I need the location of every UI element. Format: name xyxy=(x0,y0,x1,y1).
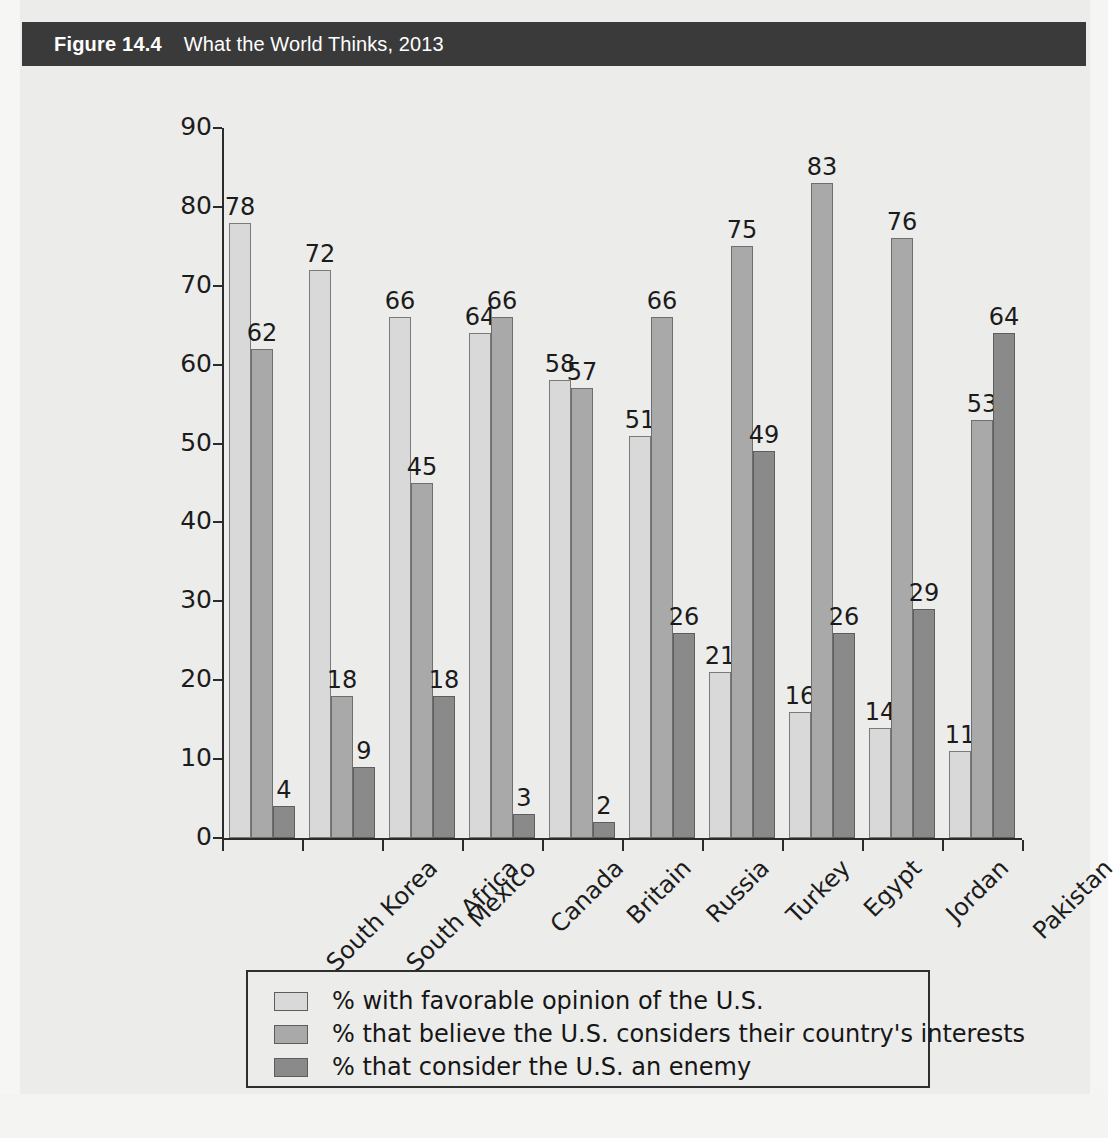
x-tick-mark xyxy=(542,840,544,851)
x-tick-mark xyxy=(1022,840,1024,851)
legend-item[interactable]: % that consider the U.S. an enemy xyxy=(274,1050,751,1084)
bar[interactable] xyxy=(673,633,695,838)
legend-label: % with favorable opinion of the U.S. xyxy=(332,987,764,1015)
bar[interactable] xyxy=(491,317,513,838)
bar[interactable] xyxy=(753,451,775,838)
bar[interactable] xyxy=(731,246,753,838)
bar[interactable] xyxy=(389,317,411,838)
bar[interactable] xyxy=(513,814,535,838)
bar-value-label: 49 xyxy=(740,421,788,449)
bar[interactable] xyxy=(789,712,811,838)
bar[interactable] xyxy=(811,183,833,838)
chart-legend: % with favorable opinion of the U.S.% th… xyxy=(246,970,930,1088)
bar-value-label: 18 xyxy=(318,666,366,694)
y-tick-label: 70 xyxy=(162,270,212,299)
x-tick-mark xyxy=(942,840,944,851)
bar[interactable] xyxy=(469,333,491,838)
bar[interactable] xyxy=(593,822,615,838)
bar[interactable] xyxy=(353,767,375,838)
x-axis-label: Britain xyxy=(621,854,697,930)
x-tick-mark xyxy=(702,840,704,851)
bar[interactable] xyxy=(833,633,855,838)
bar[interactable] xyxy=(571,388,593,838)
y-tick-mark xyxy=(213,443,222,445)
x-tick-mark xyxy=(382,840,384,851)
bar[interactable] xyxy=(971,420,993,838)
y-tick-label: 30 xyxy=(162,585,212,614)
bar-value-label: 18 xyxy=(420,666,468,694)
y-tick-mark xyxy=(213,837,222,839)
bar[interactable] xyxy=(869,728,891,838)
figure-header-bar: Figure 14.4 What the World Thinks, 2013 xyxy=(22,22,1086,66)
bar-value-label: 66 xyxy=(638,287,686,315)
legend-swatch-icon xyxy=(274,1025,308,1044)
bar[interactable] xyxy=(433,696,455,838)
x-tick-mark xyxy=(622,840,624,851)
legend-label: % that consider the U.S. an enemy xyxy=(332,1053,751,1081)
bar-value-label: 75 xyxy=(718,216,766,244)
bar[interactable] xyxy=(331,696,353,838)
y-tick-label: 50 xyxy=(162,428,212,457)
x-axis-label: Jordan xyxy=(940,854,1014,928)
legend-item[interactable]: % that believe the U.S. considers their … xyxy=(274,1017,1025,1051)
x-tick-mark xyxy=(782,840,784,851)
figure-number: Figure 14.4 xyxy=(54,33,162,56)
bar[interactable] xyxy=(949,751,971,838)
bar-value-label: 29 xyxy=(900,579,948,607)
bar[interactable] xyxy=(709,672,731,838)
legend-swatch-icon xyxy=(274,1058,308,1077)
bar-value-label: 4 xyxy=(260,776,308,804)
bar[interactable] xyxy=(273,806,295,838)
x-tick-mark xyxy=(862,840,864,851)
y-tick-mark xyxy=(213,521,222,523)
bar-value-label: 26 xyxy=(820,603,868,631)
legend-item[interactable]: % with favorable opinion of the U.S. xyxy=(274,984,764,1018)
x-axis-label: Egypt xyxy=(858,854,927,923)
page-bottom-margin xyxy=(0,1094,1108,1138)
y-tick-label: 80 xyxy=(162,191,212,220)
y-tick-mark xyxy=(213,364,222,366)
bar[interactable] xyxy=(891,238,913,838)
page-right-margin xyxy=(1090,0,1108,1138)
bar[interactable] xyxy=(549,380,571,838)
x-axis-label: Russia xyxy=(701,854,775,928)
bar[interactable] xyxy=(251,349,273,838)
y-tick-label: 60 xyxy=(162,349,212,378)
legend-swatch-icon xyxy=(274,992,308,1011)
bar-value-label: 64 xyxy=(980,303,1028,331)
y-tick-label: 0 xyxy=(162,822,212,851)
figure-title: What the World Thinks, 2013 xyxy=(184,33,444,56)
y-tick-mark xyxy=(213,758,222,760)
page-left-margin xyxy=(0,0,20,1138)
bar[interactable] xyxy=(651,317,673,838)
bar-value-label: 66 xyxy=(478,287,526,315)
x-tick-mark xyxy=(222,840,224,851)
bar-value-label: 72 xyxy=(296,240,344,268)
y-tick-mark xyxy=(213,127,222,129)
chart-area: 0102030405060708090 78624721896645186466… xyxy=(22,78,1086,1090)
y-tick-mark xyxy=(213,285,222,287)
bar-value-label: 83 xyxy=(798,153,846,181)
bar[interactable] xyxy=(629,436,651,838)
x-tick-mark xyxy=(302,840,304,851)
x-axis-label: Turkey xyxy=(781,854,856,929)
bar[interactable] xyxy=(309,270,331,838)
bar[interactable] xyxy=(229,223,251,838)
bar-value-label: 9 xyxy=(340,737,388,765)
y-tick-label: 90 xyxy=(162,112,212,141)
bar-value-label: 76 xyxy=(878,208,926,236)
y-tick-mark xyxy=(213,600,222,602)
x-tick-mark xyxy=(462,840,464,851)
bar[interactable] xyxy=(913,609,935,838)
bar-value-label: 26 xyxy=(660,603,708,631)
y-tick-label: 10 xyxy=(162,743,212,772)
bar-chart-plot: 0102030405060708090 78624721896645186466… xyxy=(22,78,1086,1090)
bar[interactable] xyxy=(411,483,433,838)
bar-value-label: 2 xyxy=(580,792,628,820)
bar-value-label: 57 xyxy=(558,358,606,386)
bar-value-label: 78 xyxy=(216,193,264,221)
bar[interactable] xyxy=(993,333,1015,838)
y-tick-mark xyxy=(213,679,222,681)
y-axis-line xyxy=(222,128,224,840)
